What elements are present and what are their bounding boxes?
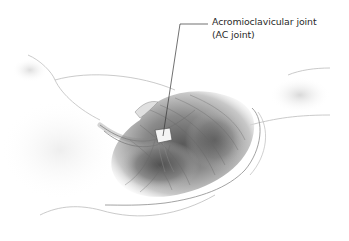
arm-shading (270, 77, 330, 113)
neck-shading (12, 58, 48, 82)
callout-label-line1: Acromioclavicular joint (212, 15, 316, 28)
callout-label: Acromioclavicular joint (AC joint) (212, 15, 316, 41)
skin-shading (0, 100, 120, 200)
callout-label-line2: (AC joint) (212, 28, 316, 41)
shoulder-muscles (105, 91, 266, 205)
